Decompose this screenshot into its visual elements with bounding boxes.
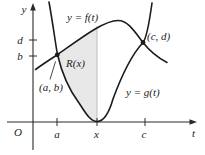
region-label: R(x) [65, 57, 85, 70]
origin-label: O [14, 126, 22, 138]
figure-background [0, 0, 205, 155]
g-curve-label: y = g(t) [125, 86, 160, 99]
point-label-cd: (c, d) [147, 30, 171, 43]
y-tick-label-d: d [17, 34, 23, 46]
intersection-dot-cd [141, 40, 146, 45]
point-label-ab: (a, b) [39, 81, 63, 94]
f-curve-label: y = f(t) [66, 11, 99, 24]
y-tick-label-b: b [17, 50, 23, 62]
t-tick-label-c: c [142, 128, 147, 140]
intersection-dot-ab [55, 52, 60, 57]
t-tick-label-a: a [54, 128, 60, 140]
t-tick-label-x: x [93, 128, 99, 140]
y-axis-label: y [21, 3, 27, 15]
function-graph-figure: y t O a x c d b y = f(t) y = g(t) (a, b)… [0, 0, 205, 155]
